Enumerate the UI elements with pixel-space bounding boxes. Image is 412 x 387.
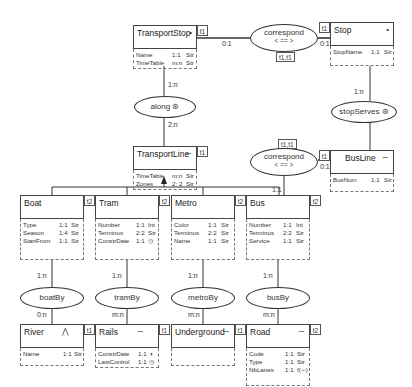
attr-name: Service [249,237,270,244]
cardinality: m:n [263,311,275,318]
attr-card: 1:1 [283,221,292,228]
relationship-along[interactable]: along ⊛ [134,96,196,118]
relationship-boatby[interactable]: boatBy [20,287,84,309]
line-geometry-icon: ∽ [298,327,305,336]
attr-card: 1:1 [136,221,145,228]
cardinality: 1:1 [272,186,282,193]
attr-card: 1:1 [371,176,380,183]
attr-name: BusNum [333,176,357,183]
attr-type: Str [221,229,229,236]
attr-name: Season [23,229,44,236]
cardinality: 0:1 [320,40,330,47]
temporal-badge: t1 [159,324,170,335]
attr-type: Str [297,350,305,357]
attr-type: Str [296,237,304,244]
cardinality: 0:1 [320,163,330,170]
entity-name: TransportLine [137,149,189,159]
attr-card: 2: 2 [172,180,182,187]
relationship-correspond-bottom[interactable]: correspond < == > [250,148,318,176]
attr-type: Str [71,237,79,244]
cardinality: 1:n [263,272,273,279]
attr-type: Str [297,358,305,365]
attribute-list: StopName 1:1 Str [330,46,394,66]
temporal-badge: t2 [84,195,95,206]
point-geometry-icon: • [189,28,192,37]
attribute-list: Number1:1Int Terminus2:2Str Service1:1St… [246,219,310,260]
attr-card: 1:1 [172,51,181,58]
attribute-list: BusNum 1:1 Str [330,174,394,192]
attr-card: 1:1 [59,221,68,228]
entity-name: Boat [24,198,42,208]
attr-card: 1:1 [208,237,217,244]
line-geometry-icon: ∽ [137,327,144,336]
attr-card: 2:2 [136,229,145,236]
attr-card: 1:1 [138,358,147,365]
clock-icon: ◷ [148,237,153,244]
attr-card: 1:4 [59,229,68,236]
relationship-stopserves[interactable]: stopServes ⊛ [331,101,397,123]
attr-name: Code [249,350,264,357]
half-circle-icon: ◑ [149,350,153,357]
attr-card: 1:1 [208,221,217,228]
attr-name: NbLanes [249,366,274,373]
attr-card: 1:1 [285,358,294,365]
attr-type: Str [221,221,229,228]
entity-name: Road [250,327,270,337]
cardinality: 1:n [112,272,122,279]
attr-card: 2:2 [208,229,217,236]
attribute-list: Code1:1Str Type1:1Str NbLanes1:1f(∽) [246,348,310,386]
attr-type: Str [384,48,392,55]
rel-sub: < == > [251,161,317,168]
clock-icon: ◷ [149,358,154,365]
attr-name: Name [23,350,40,357]
cardinality: 1:n [37,272,47,279]
relationship-busby[interactable]: busBy [246,287,310,309]
attr-name: LastControl [98,358,130,365]
temporal-badge: t2 [310,195,321,206]
relationship-tramby[interactable]: tramBy [95,287,159,309]
attr-type: Str [186,172,194,179]
attr-type: Str [71,229,79,236]
attr-name: ConstrDate [98,350,129,357]
attr-name: StartFrom [23,237,51,244]
attr-name: StopName [333,48,362,55]
attr-type: Int [148,221,155,228]
temporal-badge: t1 [197,25,208,36]
temporal-badge: t2 [310,324,321,335]
rel-name: correspond [251,152,317,161]
line-geometry-icon: ∽ [185,149,192,158]
attr-type: Str [296,229,304,236]
attr-type: Str [186,51,194,58]
cardinality: 1:n [354,88,364,95]
rel-name: correspond [251,28,317,37]
attr-name: Name [174,237,191,244]
attribute-list [171,348,235,366]
rel-name: tramBy [96,293,158,302]
attr-card: 2:2 [283,229,292,236]
entity-name: BusLine [345,153,376,163]
attribute-list: Name 1:1 Str TimeTable m:n Str [133,49,197,69]
rel-name: stopServes ⊛ [332,107,396,116]
relationship-correspond-top[interactable]: correspond < == > [250,24,318,52]
attribute-list: Name1:1Str [20,348,84,366]
attr-card: 1:1 [63,350,72,357]
attr-type: Str [186,59,194,66]
entity-name: Rails [99,327,118,337]
rel-name: along ⊛ [135,102,195,111]
rel-sub: < == > [251,37,317,44]
cardinality: 0:1 [222,40,232,47]
attr-name: Color [174,221,189,228]
attr-name: Zones [136,180,153,187]
point-geometry-icon: • [386,25,389,34]
attr-type: Str [384,176,392,183]
attr-type: Str [74,350,82,357]
entity-name: Bus [250,198,265,208]
temporal-badge: t1 [319,22,330,33]
attr-type: Str [221,237,229,244]
attribute-list: Color1:1Str Terminus2:2Str Name1:1Str [171,219,235,260]
attr-type: Str [71,221,79,228]
attribute-list: Number1:1Int Terminus2:2Str ConstrDate1:… [95,219,159,260]
relationship-metroby[interactable]: metroBy [171,287,235,309]
attr-type: Int [296,221,303,228]
attr-card: 1:1 [136,237,145,244]
